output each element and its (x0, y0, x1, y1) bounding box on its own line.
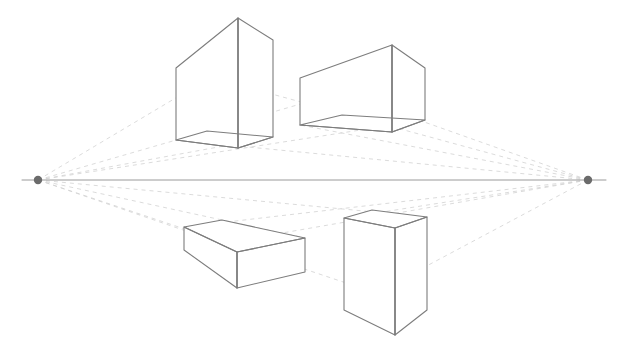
box-bottom-left[interactable] (184, 220, 305, 288)
box-top-left[interactable] (176, 18, 273, 148)
box-top-left-face-left (176, 18, 238, 148)
box-bottom-right-face-right (395, 217, 427, 335)
box-group (176, 18, 427, 335)
box-top-left-face-right (238, 18, 273, 148)
vp-right[interactable] (584, 176, 592, 184)
box-top-right[interactable] (300, 45, 425, 132)
vp-left[interactable] (34, 176, 42, 184)
box-bottom-right[interactable] (344, 210, 427, 335)
perspective-drawing (0, 0, 625, 353)
perspective-diagram-canvas (0, 0, 625, 353)
guide-line-vp-right-11 (300, 125, 588, 180)
box-bottom-right-face-left (344, 218, 395, 335)
